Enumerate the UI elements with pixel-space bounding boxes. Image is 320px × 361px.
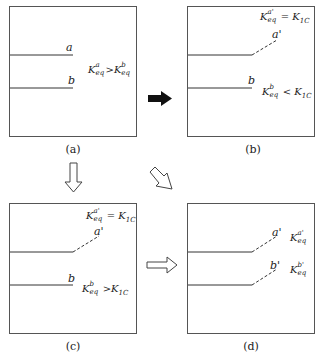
k-symbol: K	[88, 64, 95, 75]
line-label-a-prime: a'	[272, 226, 282, 239]
caption-a: (a)	[53, 143, 93, 156]
caption-c: (c)	[53, 340, 93, 353]
relation-b-top: Ka'eq = K1C	[260, 11, 310, 25]
caption-d: (d)	[231, 340, 271, 353]
line-label-b: b	[68, 272, 75, 285]
diagram-lines	[0, 0, 320, 361]
line-label-b: b	[248, 74, 255, 87]
arrow-a-to-d-icon	[150, 167, 172, 189]
caption-b: (b)	[233, 143, 273, 156]
line-a-prime-dashed	[73, 236, 99, 252]
relation-c-top: Ka'eq = K1C	[86, 210, 136, 224]
line-label-a-prime: a'	[94, 225, 104, 238]
relation-c-bottom: Kbeq >K1C	[82, 283, 128, 297]
line-a-prime-dashed	[252, 40, 277, 55]
arrow-a-to-c-icon	[65, 163, 82, 192]
line-label-a-prime: a'	[272, 28, 282, 41]
relation-a: Kaeq>Kbeq	[88, 64, 131, 76]
k-label-b-prime: Kb'eq	[290, 264, 307, 276]
k-label-a-prime: Ka'eq	[290, 232, 307, 244]
line-label-b-prime: b'	[270, 259, 280, 272]
line-label-a: a	[66, 41, 73, 54]
line-label-b: b	[68, 74, 75, 87]
relation-b-bottom: Kbeq < K1C	[262, 86, 312, 100]
arrow-c-to-d-icon	[147, 257, 177, 273]
arrow-a-to-b-icon	[148, 91, 172, 106]
